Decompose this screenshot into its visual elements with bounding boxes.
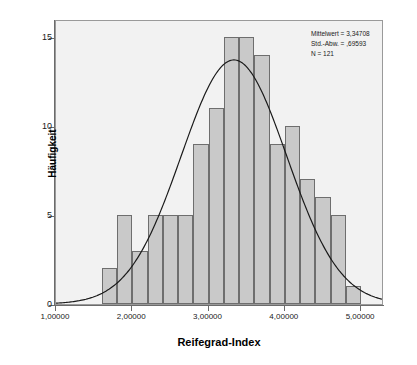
histogram-bar (300, 179, 315, 304)
x-axis-tick-label: 5,00000 (330, 312, 390, 321)
histogram-bar (239, 37, 254, 304)
histogram-bar (178, 215, 193, 304)
x-axis-tick-label: 3,00000 (178, 312, 238, 321)
histogram-bar (132, 251, 147, 304)
histogram-bar (346, 286, 361, 304)
histogram-bar (270, 144, 285, 304)
histogram-bar (148, 215, 163, 304)
histogram-bar (315, 197, 330, 304)
y-axis-tick-label: 15 (12, 32, 52, 42)
mean-label: Mittelwert = 3,34708 (311, 29, 370, 39)
statistics-legend: Mittelwert = 3,34708 Std.-Abw. = ,69593 … (311, 29, 370, 59)
sample-size-label: N = 121 (311, 49, 370, 59)
x-axis-tick-mark (360, 306, 361, 311)
plot-inner (56, 21, 382, 304)
histogram-bar (117, 215, 132, 304)
x-axis-tick-label: 1,00000 (25, 312, 85, 321)
x-axis-line (54, 305, 384, 306)
plot-area (55, 20, 383, 305)
x-axis-tick-mark (131, 306, 132, 311)
x-axis-tick-mark (284, 306, 285, 311)
y-axis-tick-label: 0 (12, 299, 52, 309)
histogram-bar (331, 215, 346, 304)
histogram-bar (102, 268, 117, 304)
histogram-bar (285, 126, 300, 304)
x-axis-tick-label: 4,00000 (254, 312, 314, 321)
x-axis-tick-mark (55, 306, 56, 311)
histogram-bar (163, 215, 178, 304)
std-dev-label: Std.-Abw. = ,69593 (311, 39, 370, 49)
y-axis-title: Häufigkeit (47, 94, 58, 214)
x-axis-tick-mark (208, 306, 209, 311)
histogram-bar (193, 144, 208, 304)
histogram-bar (224, 37, 239, 304)
histogram-bar (209, 108, 224, 304)
histogram-bars (56, 21, 382, 304)
x-axis-tick-label: 2,00000 (101, 312, 161, 321)
histogram-chart: 051015 1,000002,000003,000004,000005,000… (0, 0, 417, 365)
x-axis-title: Reifegrad-Index (55, 336, 383, 348)
histogram-bar (254, 55, 269, 304)
